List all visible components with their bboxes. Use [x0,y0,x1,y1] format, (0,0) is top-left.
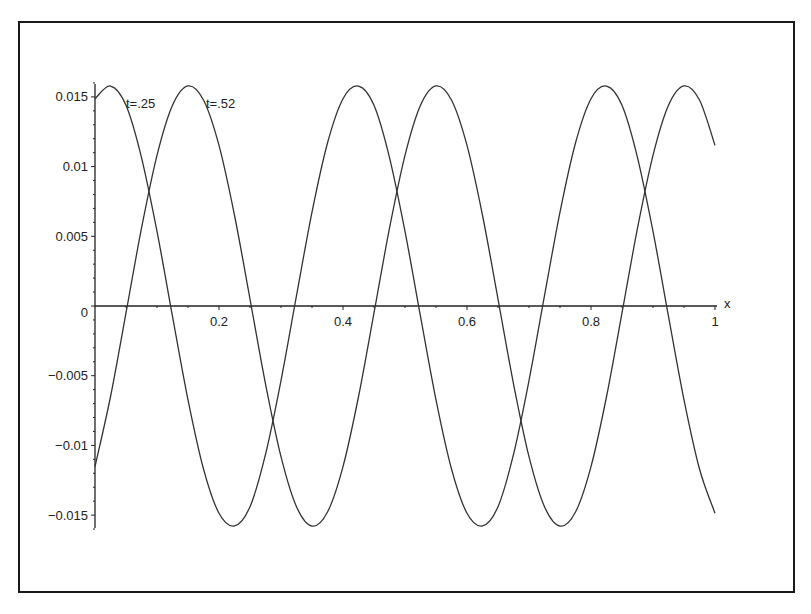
x-tick-label: 1 [711,314,718,329]
line-chart: 0.0150.010.0050−0.005−0.01−0.0150.20.40.… [0,0,811,614]
y-tick-label: 0.01 [63,159,88,174]
x-tick-label: 0.4 [334,314,352,329]
x-axis-label: x [724,296,731,311]
axes: 0.0150.010.0050−0.005−0.01−0.0150.20.40.… [48,83,731,529]
y-tick-label: −0.015 [48,508,88,523]
x-tick-label: 0.2 [210,314,228,329]
y-tick-label: 0.015 [55,89,88,104]
y-tick-label: 0 [81,305,88,320]
y-tick-label: −0.01 [55,438,88,453]
y-tick-label: 0.005 [55,229,88,244]
series-label-1: t=.25 [126,96,155,111]
curve-labels: t=.25t=.52 [126,96,235,111]
x-tick-label: 0.8 [582,314,600,329]
y-tick-label: −0.005 [48,368,88,383]
series-label-2: t=.52 [206,96,235,111]
x-tick-label: 0.6 [458,314,476,329]
